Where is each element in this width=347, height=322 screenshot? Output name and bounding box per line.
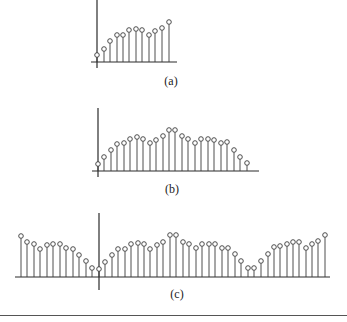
stem-marker-circle (95, 53, 100, 58)
stem-marker-circle (134, 27, 139, 32)
stem-marker-circle (155, 243, 160, 248)
stem-marker-circle (135, 135, 140, 140)
stem-marker-circle (103, 260, 108, 265)
stem-marker-circle (161, 240, 166, 245)
stem-marker-circle (90, 266, 95, 271)
stem-marker-circle (121, 33, 126, 38)
stem-marker-circle (252, 266, 257, 271)
stem-marker-circle (266, 252, 271, 257)
stem-marker-circle (219, 141, 224, 146)
stem-marker-circle (115, 33, 120, 38)
stem-marker-circle (167, 20, 172, 25)
stem-marker-circle (109, 148, 114, 153)
stem-marker-circle (25, 240, 30, 245)
stem-marker-circle (232, 148, 237, 153)
stem-marker-circle (259, 259, 264, 264)
stem-marker-circle (200, 242, 205, 247)
stem-marker-circle (96, 162, 101, 167)
stem-marker-circle (122, 141, 127, 146)
panel-b-plot (92, 108, 259, 177)
stem-marker-circle (127, 28, 132, 33)
stem-marker-circle (174, 233, 179, 238)
stem-marker-circle (71, 247, 76, 252)
stem-marker-circle (45, 243, 50, 248)
stem-marker-circle (140, 28, 145, 33)
stem-marker-circle (193, 141, 198, 146)
stem-marker-circle (136, 241, 141, 246)
stem-marker-circle (239, 259, 244, 264)
stem-marker-circle (97, 267, 102, 272)
panel-c-caption: (c) (170, 287, 183, 302)
stem-marker-circle (278, 244, 283, 249)
stem-marker-circle (207, 242, 212, 247)
panel-a-caption: (a) (164, 74, 177, 89)
stem-marker-circle (102, 155, 107, 160)
stem-marker-circle (291, 240, 296, 245)
stem-marker-circle (154, 138, 159, 143)
stem-marker-circle (116, 247, 121, 252)
stem-marker-circle (84, 259, 89, 264)
stem-marker-circle (77, 253, 82, 258)
stem-marker-circle (102, 47, 107, 52)
panel-c-plot (15, 213, 330, 290)
stem-marker-circle (238, 155, 243, 160)
stem-marker-circle (181, 240, 186, 245)
stem-marker-circle (245, 161, 250, 166)
bottom-divider-rule (0, 315, 347, 316)
stem-marker-circle (226, 246, 231, 251)
stem-marker-circle (297, 240, 302, 245)
panel-b-caption: (b) (165, 182, 179, 197)
stem-marker-circle (147, 33, 152, 38)
stem-marker-circle (38, 247, 43, 252)
stem-marker-circle (194, 246, 199, 251)
panel-a-plot (91, 0, 177, 68)
stem-marker-circle (128, 137, 133, 142)
stem-marker-circle (285, 242, 290, 247)
stem-marker-circle (213, 242, 218, 247)
stem-marker-circle (153, 29, 158, 34)
stem-marker-circle (32, 242, 37, 247)
stem-marker-circle (199, 137, 204, 142)
stem-marker-circle (141, 137, 146, 142)
stem-marker-circle (272, 245, 277, 250)
stem-marker-circle (167, 128, 172, 133)
stem-marker-circle (51, 242, 56, 247)
stem-marker-circle (161, 134, 166, 139)
stem-marker-circle (173, 128, 178, 133)
stem-marker-circle (64, 246, 69, 251)
stem-marker-circle (58, 242, 63, 247)
stem-marker-circle (310, 242, 315, 247)
stem-plot-figure (0, 0, 347, 322)
stem-marker-circle (148, 141, 153, 146)
stem-marker-circle (304, 246, 309, 251)
stem-marker-circle (233, 252, 238, 257)
stem-marker-circle (19, 234, 24, 239)
stem-marker-circle (148, 247, 153, 252)
stem-marker-circle (108, 39, 113, 44)
stem-marker-circle (115, 142, 120, 147)
stem-marker-circle (220, 246, 225, 251)
stem-marker-circle (110, 253, 115, 258)
stem-marker-circle (180, 134, 185, 139)
stem-marker-circle (323, 233, 328, 238)
stem-marker-circle (187, 242, 192, 247)
stem-marker-circle (123, 247, 128, 252)
stem-marker-circle (142, 242, 147, 247)
stem-marker-circle (206, 137, 211, 142)
stem-marker-circle (160, 26, 165, 31)
stem-marker-circle (168, 233, 173, 238)
stem-marker-circle (246, 266, 251, 271)
stem-marker-circle (186, 137, 191, 142)
stem-marker-circle (212, 138, 217, 143)
stem-marker-circle (129, 242, 134, 247)
stem-marker-circle (225, 140, 230, 145)
stem-marker-circle (316, 239, 321, 244)
